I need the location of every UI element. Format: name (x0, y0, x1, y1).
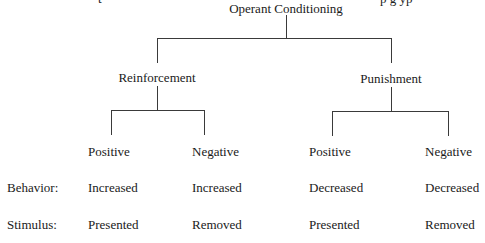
root-node-label: Operant Conditioning (229, 1, 343, 16)
punishment-drop-line (391, 38, 392, 63)
punishment-negative-behavior: Decreased (425, 180, 479, 195)
reinforcement-negative-drop-line (204, 110, 205, 135)
reinforcement-drop-line (157, 38, 158, 63)
root-stem-line (286, 15, 287, 39)
reinforcement-branch-line (111, 110, 205, 111)
punishment-positive-drop-line (332, 111, 333, 136)
punishment-stem-line (391, 87, 392, 111)
reinforcement-node-label: Reinforcement (118, 70, 195, 85)
punishment-negative-stimulus: Removed (425, 217, 475, 232)
punishment-node-label: Punishment (360, 71, 421, 86)
punishment-branch-line (332, 111, 449, 112)
reinforcement-negative-label: Negative (192, 144, 239, 159)
behavior-row-label: Behavior: (7, 180, 58, 195)
punishment-positive-label: Positive (309, 144, 351, 159)
reinforcement-negative-behavior: Increased (192, 180, 242, 195)
reinforcement-positive-drop-line (111, 110, 112, 135)
root-branch-line (157, 38, 392, 39)
clipped-text-fragment-left: t (98, 0, 102, 6)
punishment-negative-label: Negative (425, 144, 472, 159)
reinforcement-negative-stimulus: Removed (192, 217, 242, 232)
reinforcement-positive-stimulus: Presented (88, 217, 139, 232)
punishment-negative-drop-line (448, 111, 449, 136)
reinforcement-positive-label: Positive (88, 144, 130, 159)
clipped-text-fragment-right: p g yp (380, 0, 413, 6)
reinforcement-stem-line (157, 86, 158, 110)
stimulus-row-label: Stimulus: (7, 217, 57, 232)
punishment-positive-behavior: Decreased (309, 180, 363, 195)
reinforcement-positive-behavior: Increased (88, 180, 138, 195)
punishment-positive-stimulus: Presented (309, 217, 360, 232)
